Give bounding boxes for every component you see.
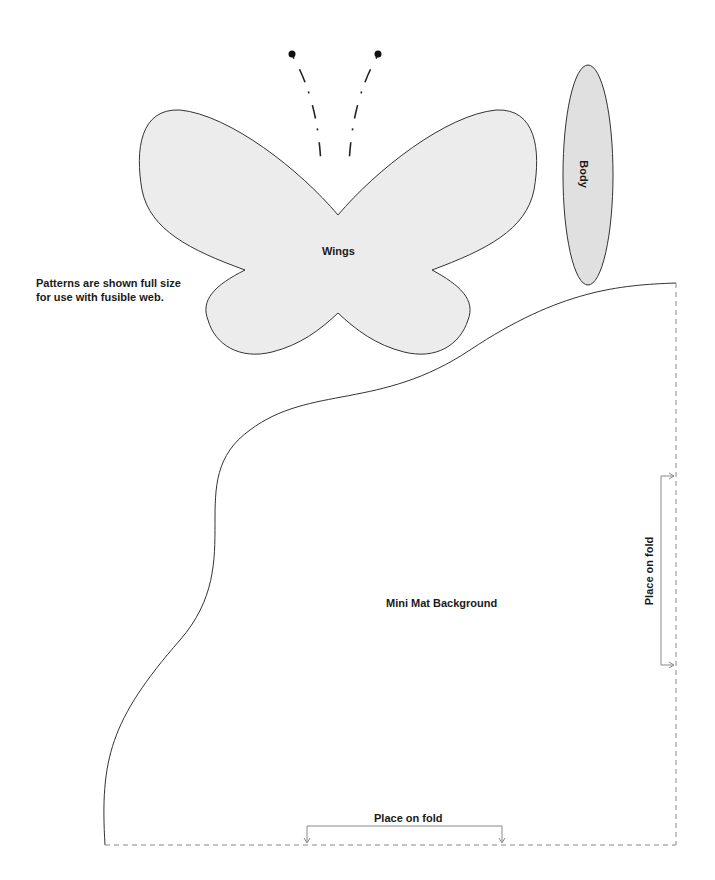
note-line-1: Patterns are shown full size (36, 276, 181, 290)
antennae (289, 51, 382, 166)
pattern-note: Patterns are shown full size for use wit… (36, 276, 181, 304)
fold-bracket-bottom (304, 826, 505, 843)
wings-label: Wings (322, 245, 355, 257)
fold-label-bottom: Place on fold (374, 812, 442, 824)
background-label: Mini Mat Background (386, 597, 497, 609)
note-line-2: for use with fusible web. (36, 290, 181, 304)
wings-piece (139, 110, 536, 354)
pattern-canvas (0, 0, 715, 880)
fold-label-right: Place on fold (643, 537, 655, 605)
body-label: Body (578, 160, 590, 188)
background-piece-outline (104, 283, 676, 845)
fold-bracket-right (661, 473, 674, 668)
